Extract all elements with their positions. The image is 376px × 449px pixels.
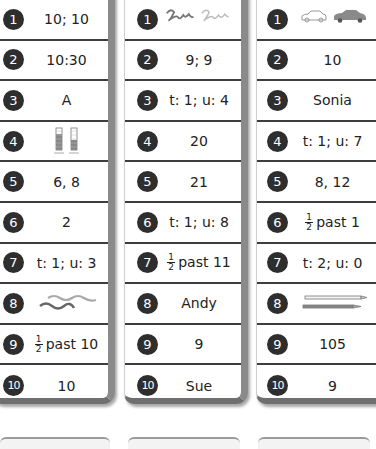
answer-row: 4 bbox=[0, 122, 108, 163]
wavy-lines-picture bbox=[31, 292, 102, 314]
answer-text: 8, 12 bbox=[293, 174, 372, 190]
question-number-badge: 5 bbox=[3, 171, 24, 192]
answer-row: 9 12past 10 bbox=[0, 325, 108, 366]
question-number-badge: 9 bbox=[267, 334, 288, 355]
answer-card-3: 1 210 3Sonia 4t: 1; u: 7 58, 12 6 12past… bbox=[256, 0, 376, 404]
answer-row: 420 bbox=[125, 122, 241, 163]
answer-row: 3t: 1; u: 4 bbox=[125, 81, 241, 122]
answer-row: 99 bbox=[125, 325, 241, 366]
answer-text: 6, 8 bbox=[29, 174, 104, 190]
question-number-badge: 7 bbox=[267, 252, 288, 273]
question-number-badge: 5 bbox=[267, 171, 288, 192]
answer-row: 521 bbox=[125, 162, 241, 203]
answer-text: t: 1; u: 4 bbox=[161, 92, 237, 108]
answer-text: 9 bbox=[161, 336, 237, 352]
question-number-badge: 9 bbox=[3, 334, 24, 355]
answer-row: 62 bbox=[0, 203, 108, 244]
question-number-badge: 5 bbox=[137, 171, 158, 192]
answer-text: t: 1; u: 7 bbox=[293, 133, 372, 149]
answer-row: 210 bbox=[257, 41, 376, 82]
answer-text: 10; 10 bbox=[29, 11, 104, 27]
answer-text: t: 2; u: 0 bbox=[293, 255, 372, 271]
next-card-top-3 bbox=[258, 437, 370, 449]
question-number-badge: 4 bbox=[267, 131, 288, 152]
answer-text: 12past 1 bbox=[293, 213, 372, 232]
question-number-badge: 10 bbox=[267, 375, 288, 396]
half-fraction: 12 bbox=[167, 253, 175, 272]
cars-picture bbox=[295, 8, 370, 24]
next-card-top-2 bbox=[128, 437, 240, 449]
answer-text: 105 bbox=[293, 336, 372, 352]
question-number-badge: 2 bbox=[267, 49, 288, 70]
question-number-badge: 8 bbox=[267, 293, 288, 314]
answer-text: t: 1; u: 3 bbox=[29, 255, 104, 271]
question-number-badge: 3 bbox=[3, 90, 24, 111]
answer-row: 56, 8 bbox=[0, 162, 108, 203]
answer-text: t: 1; u: 8 bbox=[161, 214, 237, 230]
answer-text: 12past 11 bbox=[161, 253, 237, 272]
question-number-badge: 1 bbox=[137, 9, 158, 30]
answer-row: 4t: 1; u: 7 bbox=[257, 122, 376, 163]
question-number-badge: 10 bbox=[3, 375, 24, 396]
answer-row: 7t: 2; u: 0 bbox=[257, 244, 376, 285]
question-number-badge: 2 bbox=[137, 49, 158, 70]
answer-row: 8Andy bbox=[125, 284, 241, 325]
question-number-badge: 7 bbox=[3, 252, 24, 273]
answer-row: 1 bbox=[257, 0, 376, 41]
answer-text: A bbox=[29, 92, 104, 108]
answer-row: 10Sue bbox=[125, 365, 241, 406]
question-number-badge: 8 bbox=[3, 293, 24, 314]
question-number-badge: 2 bbox=[3, 49, 24, 70]
answer-row: 210:30 bbox=[0, 41, 108, 82]
question-number-badge: 1 bbox=[267, 9, 288, 30]
question-number-badge: 3 bbox=[267, 90, 288, 111]
question-number-badge: 6 bbox=[3, 212, 24, 233]
question-number-badge: 7 bbox=[137, 252, 158, 273]
squiggly-lines-picture bbox=[163, 5, 235, 27]
pencils-picture bbox=[295, 294, 370, 312]
answer-row: 3A bbox=[0, 81, 108, 122]
answer-row: 7t: 1; u: 3 bbox=[0, 244, 108, 285]
answer-row: 6 12past 1 bbox=[257, 203, 376, 244]
question-number-badge: 1 bbox=[3, 9, 24, 30]
answer-row: 1 bbox=[125, 0, 241, 41]
answer-text: Andy bbox=[161, 295, 237, 311]
answer-row: 110; 10 bbox=[0, 0, 108, 41]
answer-row: 3Sonia bbox=[257, 81, 376, 122]
answer-row: 8 bbox=[0, 284, 108, 325]
question-number-badge: 4 bbox=[3, 131, 24, 152]
answer-row: 9105 bbox=[257, 325, 376, 366]
answer-row: 58, 12 bbox=[257, 162, 376, 203]
answer-text: 9; 9 bbox=[161, 52, 237, 68]
question-number-badge: 8 bbox=[137, 293, 158, 314]
half-fraction: 12 bbox=[305, 213, 313, 232]
answer-text: Sonia bbox=[293, 92, 372, 108]
answer-text: 10 bbox=[29, 378, 104, 394]
answer-row: 8 bbox=[257, 284, 376, 325]
question-number-badge: 6 bbox=[267, 212, 288, 233]
question-number-badge: 3 bbox=[137, 90, 158, 111]
half-fraction: 12 bbox=[35, 335, 43, 354]
answer-text: 21 bbox=[161, 174, 237, 190]
question-number-badge: 10 bbox=[137, 375, 158, 396]
question-number-badge: 4 bbox=[137, 131, 158, 152]
answer-row: 6t: 1; u: 8 bbox=[125, 203, 241, 244]
answer-text: 9 bbox=[293, 378, 372, 394]
answer-row: 1010 bbox=[0, 365, 108, 406]
bar-tally-chart-picture bbox=[31, 127, 102, 155]
answer-row: 109 bbox=[257, 365, 376, 406]
question-number-badge: 6 bbox=[137, 212, 158, 233]
answer-text: 10 bbox=[293, 52, 372, 68]
answer-text: Sue bbox=[161, 378, 237, 394]
answer-card-1: 110; 10 210:30 3A 4 56, 8 bbox=[0, 0, 115, 404]
answer-text: 10:30 bbox=[29, 52, 104, 68]
next-card-top-1 bbox=[0, 437, 110, 449]
answer-card-2: 1 29; 9 3t: 1; u: 4 420 521 6t: 1; u: 8 … bbox=[124, 0, 248, 404]
answer-row: 29; 9 bbox=[125, 41, 241, 82]
answer-text: 20 bbox=[161, 133, 237, 149]
answer-text: 12past 10 bbox=[29, 335, 104, 354]
answer-text: 2 bbox=[29, 214, 104, 230]
question-number-badge: 9 bbox=[137, 334, 158, 355]
answer-row: 7 12past 11 bbox=[125, 244, 241, 285]
